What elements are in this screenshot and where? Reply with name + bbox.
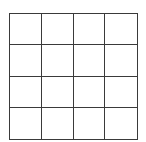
grid-cell-r2-c4 <box>105 45 137 76</box>
grid-cell-r4-c3 <box>74 108 106 139</box>
grid-cell-r2-c2 <box>42 45 74 76</box>
grid-cell-r4-c1 <box>10 108 42 139</box>
grid-cell-r3-c4 <box>105 77 137 108</box>
grid-cell-r1-c4 <box>105 14 137 45</box>
grid-cell-r3-c3 <box>74 77 106 108</box>
grid-cell-r1-c1 <box>10 14 42 45</box>
grid-cell-r3-c1 <box>10 77 42 108</box>
grid-cell-r2-c3 <box>74 45 106 76</box>
grid-cell-r1-c3 <box>74 14 106 45</box>
grid-cell-r2-c1 <box>10 45 42 76</box>
grid-cell-r1-c2 <box>42 14 74 45</box>
grid-cell-r4-c2 <box>42 108 74 139</box>
grid-cell-r3-c2 <box>42 77 74 108</box>
grid-cell-r4-c4 <box>105 108 137 139</box>
grid-4x4 <box>9 13 138 140</box>
